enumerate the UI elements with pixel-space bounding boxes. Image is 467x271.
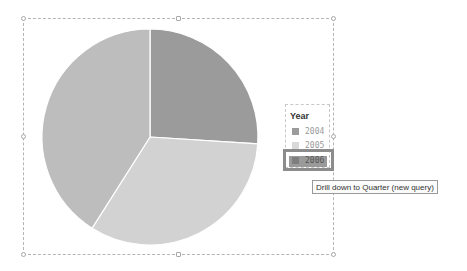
legend-label: 2004 bbox=[305, 127, 324, 136]
legend-title: Year bbox=[290, 111, 309, 121]
legend-swatch-2005 bbox=[292, 142, 299, 149]
pie-chart[interactable] bbox=[0, 0, 467, 271]
drill-down-tooltip: Drill down to Quarter (new query) bbox=[312, 180, 438, 194]
legend-swatch-2004 bbox=[292, 128, 299, 135]
pie-slice-2004[interactable] bbox=[150, 29, 258, 144]
pie-slices[interactable] bbox=[42, 29, 258, 245]
legend-item-2004[interactable]: 2004 bbox=[292, 127, 324, 138]
legend-item-highlight bbox=[283, 149, 334, 171]
